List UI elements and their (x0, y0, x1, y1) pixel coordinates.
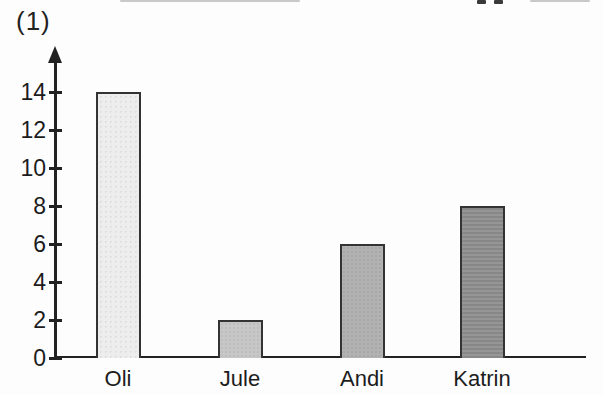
bar-chart: 02468101214 OliJuleAndiKatrin (0, 0, 603, 395)
x-label-katrin: Katrin (427, 366, 537, 392)
y-tick-label-2: 2 (2, 308, 46, 332)
y-tick-label-10: 10 (2, 156, 46, 180)
bar-katrin (460, 206, 505, 358)
bar-jule (218, 320, 263, 358)
x-label-andi: Andi (307, 366, 417, 392)
chart-page: (1) 02468101214 OliJuleAndiKatrin (0, 0, 603, 395)
x-label-jule: Jule (185, 366, 295, 392)
y-tick-label-12: 12 (2, 118, 46, 142)
y-tick-0 (49, 357, 62, 360)
y-tick-6 (49, 243, 62, 246)
y-tick-8 (49, 205, 62, 208)
bar-oli (96, 92, 141, 358)
y-tick-12 (49, 129, 62, 132)
y-tick-4 (49, 281, 62, 284)
x-label-oli: Oli (63, 366, 173, 392)
y-tick-label-8: 8 (2, 194, 46, 218)
y-tick-label-0: 0 (2, 346, 46, 370)
y-tick-10 (49, 167, 62, 170)
y-tick-label-14: 14 (2, 80, 46, 104)
bar-andi (340, 244, 385, 358)
y-tick-label-4: 4 (2, 270, 46, 294)
y-tick-label-6: 6 (2, 232, 46, 256)
y-tick-2 (49, 319, 62, 322)
y-tick-14 (49, 91, 62, 94)
